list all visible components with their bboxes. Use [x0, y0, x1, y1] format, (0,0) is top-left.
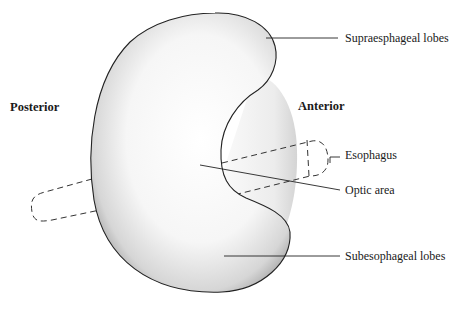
esophagus-label: Esophagus: [345, 148, 397, 162]
anterior-label: Anterior: [298, 99, 345, 113]
subesophageal-label: Subesophageal lobes: [345, 249, 445, 263]
esophagus-leader: [330, 157, 340, 163]
supraesophageal-label: Supraesphageal lobes: [345, 31, 449, 45]
optic-area-label: Optic area: [345, 183, 395, 197]
posterior-label: Posterior: [10, 100, 59, 114]
